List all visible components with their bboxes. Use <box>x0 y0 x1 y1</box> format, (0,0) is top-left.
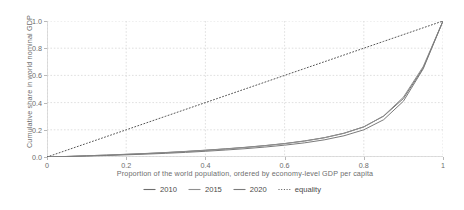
y-tick-label: 1.0 <box>32 17 42 26</box>
chart-legend: 201020152020equality <box>0 185 464 194</box>
lorenz-curve-chart: Cumulative share in world nominal GDP Pr… <box>0 0 464 210</box>
legend-label: 2010 <box>160 185 177 194</box>
x-tick-mark <box>443 157 444 160</box>
x-tick-mark <box>47 157 48 160</box>
x-axis-title: Proportion of the world population, orde… <box>47 169 443 178</box>
legend-swatch-2010-icon <box>143 186 156 193</box>
y-tick-mark <box>44 21 47 22</box>
y-tick-label: 0.0 <box>32 153 42 162</box>
legend-item-2020[interactable]: 2020 <box>233 185 267 194</box>
y-tick-label: 0.8 <box>32 44 42 53</box>
x-tick-label: 0.8 <box>359 161 369 170</box>
x-tick-mark <box>205 157 206 160</box>
y-tick-label: 0.4 <box>32 98 42 107</box>
x-tick-label: 0.6 <box>280 161 290 170</box>
series-line-equality <box>47 21 443 157</box>
y-tick-label: 0.6 <box>32 71 42 80</box>
legend-swatch-2015-icon <box>188 186 201 193</box>
y-tick-mark <box>44 130 47 131</box>
legend-item-equality[interactable]: equality <box>278 185 321 194</box>
x-tick-label: 0 <box>45 161 49 170</box>
x-tick-label: 0.2 <box>121 161 131 170</box>
legend-label: 2015 <box>205 185 222 194</box>
y-tick-mark <box>44 48 47 49</box>
y-tick-label: 0.2 <box>32 125 42 134</box>
plot-svg <box>47 21 443 157</box>
legend-label: equality <box>295 185 321 194</box>
x-tick-mark <box>364 157 365 160</box>
y-tick-mark <box>44 75 47 76</box>
legend-label: 2020 <box>250 185 267 194</box>
x-tick-mark <box>126 157 127 160</box>
x-tick-label: 0.4 <box>200 161 210 170</box>
plot-area: 0.00.20.40.60.81.0 00.20.40.60.81 <box>47 21 443 157</box>
x-tick-mark <box>285 157 286 160</box>
x-tick-label: 1 <box>441 161 445 170</box>
y-tick-mark <box>44 103 47 104</box>
legend-swatch-2020-icon <box>233 186 246 193</box>
legend-item-2015[interactable]: 2015 <box>188 185 222 194</box>
legend-item-2010[interactable]: 2010 <box>143 185 177 194</box>
legend-swatch-equality-icon <box>278 186 291 193</box>
